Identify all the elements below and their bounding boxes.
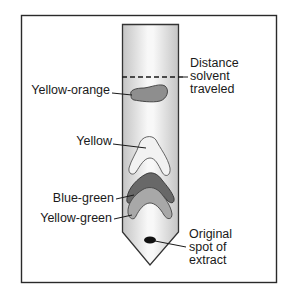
origin-spot: [144, 237, 156, 244]
chromatography-figure: Distance solvent traveled Yellow-orange …: [0, 0, 290, 300]
label-solvent-front: Distance solvent traveled: [190, 57, 239, 96]
label-origin: Original spot of extract: [189, 228, 232, 267]
diagram-canvas: [0, 0, 290, 300]
label-yellow-orange: Yellow-orange: [31, 84, 110, 97]
label-yellow-green: Yellow-green: [40, 212, 112, 225]
label-yellow: Yellow: [76, 135, 112, 148]
label-blue-green: Blue-green: [53, 192, 114, 205]
